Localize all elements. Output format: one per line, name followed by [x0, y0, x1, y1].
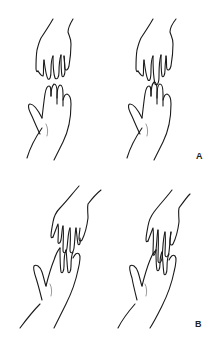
- bottom-hand-right-icon: [118, 250, 176, 328]
- top-hand-right-icon: [146, 190, 190, 263]
- panel-label-b: B: [195, 320, 202, 329]
- bottom-hand-right-icon: [127, 82, 171, 160]
- bottom-hand-left-icon: [27, 84, 71, 160]
- top-hand-right-icon: [136, 19, 176, 85]
- hands-pair-vertical-illustration: [0, 0, 216, 174]
- top-hand-left-icon: [51, 186, 101, 253]
- top-hand-left-icon: [36, 19, 73, 79]
- hands-pair-diagonal-illustration: [0, 174, 216, 348]
- panel-b: B: [0, 174, 216, 348]
- panel-a: A: [0, 0, 216, 174]
- bottom-hand-left-icon: [20, 248, 80, 328]
- panel-label-a: A: [196, 152, 203, 161]
